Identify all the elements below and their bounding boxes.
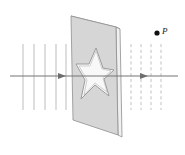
point-p-label: P xyxy=(161,26,168,36)
axis-arrowhead-right xyxy=(140,73,148,79)
figure-container: P xyxy=(0,0,185,155)
point-p-marker xyxy=(154,30,159,35)
field-lines-right xyxy=(131,44,161,110)
axis-arrowhead-left xyxy=(58,73,66,79)
physics-diagram: P xyxy=(0,0,185,155)
